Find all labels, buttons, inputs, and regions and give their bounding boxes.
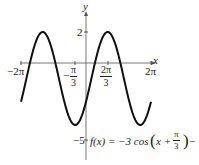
tick-label-y2: 2 (77, 27, 83, 38)
frac-denominator: 3 (173, 141, 180, 151)
fn-x-plus: x + (156, 135, 171, 147)
frac-numerator: 2π (100, 65, 112, 77)
tick-label-neg2pi: −2π (7, 66, 24, 77)
fn-close-paren: ) (183, 131, 189, 151)
tick-label-negpi3-sign: − (63, 70, 69, 81)
fn-open-paren: ( (150, 131, 156, 151)
fn-pi-over-3: π 3 (173, 130, 180, 151)
frac-numerator: π (70, 65, 77, 77)
y-axis-label: y (83, 1, 88, 12)
tick-label-negpi3: π 3 (70, 65, 77, 88)
fn-prefix: f(x) = −3 cos (90, 135, 149, 147)
fn-suffix: − 1 (189, 135, 199, 147)
frac-denominator: 3 (100, 77, 112, 88)
frac-denominator: 3 (70, 77, 77, 88)
tick-label-2pi3: 2π 3 (100, 65, 112, 88)
tick-label-2pi: 2π (145, 66, 156, 77)
frac-numerator: π (173, 130, 180, 141)
tick-label-yneg5: −5 (73, 135, 85, 146)
